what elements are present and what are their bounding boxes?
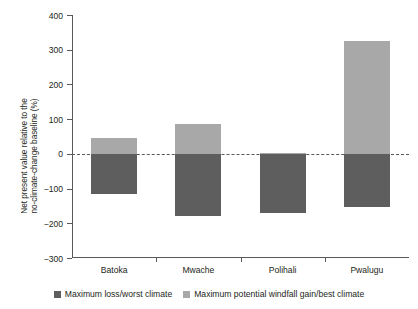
y-tick: −300 [67, 258, 72, 259]
bar-group-batoka [91, 15, 137, 258]
y-tick-label: 400 [49, 11, 63, 21]
x-axis-label-mwache: Mwache [182, 265, 214, 275]
bar-segment-loss [344, 154, 390, 207]
bar-chart-figure: Net present value relative to the no-cli… [0, 0, 418, 309]
plot-area: 4003002001000−100−200−300 BatokaMwachePo… [72, 15, 409, 258]
legend-label: Maximum loss/worst climate [65, 289, 172, 299]
bar-segment-loss [260, 154, 306, 213]
y-axis-title-line-2: no-climate-change baseline (%) [29, 98, 39, 213]
x-tick-mark [325, 257, 326, 262]
x-axis-label-pwalugu: Pwalugu [350, 265, 383, 275]
legend-swatch-icon [183, 291, 190, 298]
y-tick-label: −200 [44, 219, 63, 229]
legend-swatch-icon [54, 291, 61, 298]
legend-label: Maximum potential windfall gain/best cli… [194, 289, 364, 299]
y-tick-label: −100 [44, 184, 63, 194]
y-tick-label: 200 [49, 80, 63, 90]
y-tick-label: 100 [49, 115, 63, 125]
bar-group-pwalugu [344, 15, 390, 258]
x-tick-mark [156, 257, 157, 262]
bar-group-mwache [175, 15, 221, 258]
x-tick-mark [241, 257, 242, 262]
y-axis-title-line-1: Net present value relative to the [19, 98, 29, 214]
bar-segment-gain [344, 41, 390, 154]
bar-series-group [72, 15, 409, 258]
y-tick-label: −300 [44, 254, 63, 264]
y-tick-mark [67, 258, 72, 259]
y-tick-label: 300 [49, 45, 63, 55]
bar-group-polihali [260, 15, 306, 258]
x-axis-label-batoka: Batoka [101, 265, 128, 275]
bar-segment-loss [91, 154, 137, 195]
bar-segment-gain [91, 138, 137, 154]
bar-segment-gain [175, 124, 221, 154]
chart-legend: Maximum loss/worst climateMaximum potent… [0, 289, 418, 299]
y-tick-label: 0 [58, 149, 63, 159]
x-axis-label-polihali: Polihali [269, 265, 297, 275]
y-axis-title: Net present value relative to the no-cli… [15, 41, 43, 271]
legend-item-1: Maximum potential windfall gain/best cli… [183, 289, 364, 299]
legend-item-0: Maximum loss/worst climate [54, 289, 172, 299]
bar-segment-loss [175, 154, 221, 216]
